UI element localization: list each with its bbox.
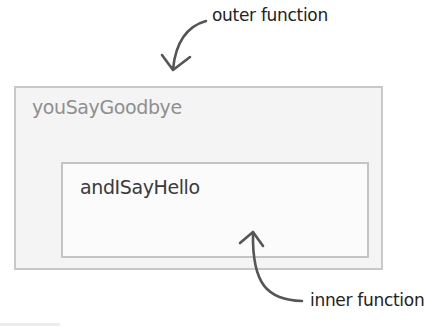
outer-function-name: youSayGoodbye: [32, 96, 182, 118]
outer-function-label: outer function: [212, 5, 328, 25]
inner-function-box: andISayHello: [61, 162, 369, 258]
outer-function-box: youSayGoodbye andISayHello: [14, 86, 383, 270]
curved-arrow-down-icon: [162, 21, 206, 70]
inner-function-name: andISayHello: [80, 176, 200, 198]
cut-off-caption: [0, 323, 60, 326]
inner-function-label: inner function: [310, 290, 424, 310]
